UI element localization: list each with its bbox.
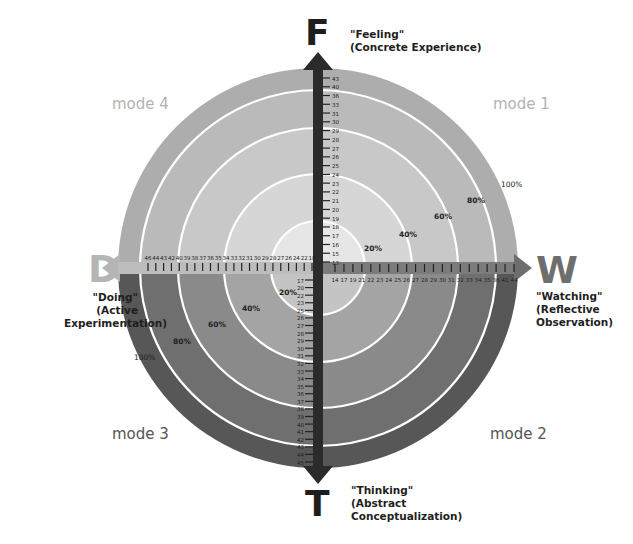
horizontal-axis-right	[318, 262, 518, 274]
learning-style-diagram: 1315161718192021222324252627282930313336…	[0, 0, 633, 544]
tick-label-right: 23	[376, 277, 383, 283]
tick-label-left: 28	[269, 255, 276, 261]
tick-label-right: 19	[349, 277, 356, 283]
tick-label-down: 31	[297, 353, 304, 359]
tick-label-left: 46	[145, 255, 152, 261]
tick-label-up: 20	[332, 207, 339, 213]
doing-subtitle-1: (Active	[64, 304, 138, 317]
tick-label-up: 33	[332, 102, 339, 108]
pct-label-ur-100: 100%	[501, 180, 522, 189]
pole-letter-f: F	[305, 15, 330, 51]
pct-label-ll-40: 40%	[242, 304, 260, 313]
doing-subtitle-2: Experimentation)	[64, 317, 138, 330]
tick-label-up: 21	[332, 198, 339, 204]
tick-label-down: 30	[297, 346, 304, 352]
pole-label-watching: "Watching" (Reflective Observation)	[536, 290, 613, 329]
mode-label-3: mode 3	[112, 425, 169, 443]
tick-label-down: 40	[297, 422, 304, 428]
tick-label-up: 40	[332, 84, 339, 90]
tick-label-left: 35	[215, 255, 222, 261]
tick-label-left: 39	[184, 255, 191, 261]
pct-label-ll-60: 60%	[208, 320, 226, 329]
tick-label-down: 42	[297, 437, 304, 443]
tick-label-left: 43	[160, 255, 167, 261]
pole-letter-d: D	[88, 250, 120, 288]
doing-title: "Doing"	[64, 291, 138, 304]
tick-label-down: 35	[297, 384, 304, 390]
tick-label-right: 30	[439, 277, 446, 283]
tick-label-up: 16	[332, 242, 339, 248]
tick-label-left: 30	[254, 255, 261, 261]
tick-label-up: 36	[332, 93, 339, 99]
tick-label-down: 41	[297, 429, 304, 435]
pole-letter-t: T	[305, 486, 330, 522]
tick-label-right: 28	[421, 277, 428, 283]
tick-label-up: 17	[332, 233, 339, 239]
tick-label-up: 31	[332, 111, 339, 117]
tick-label-right: 25	[394, 277, 401, 283]
tick-label-left: 44	[152, 255, 159, 261]
pole-label-thinking: "Thinking" (Abstract Conceptualization)	[351, 484, 462, 523]
tick-label-left: 34	[223, 255, 230, 261]
tick-label-down: 36	[297, 391, 304, 397]
tick-label-left: 27	[277, 255, 284, 261]
tick-label-right: 22	[367, 277, 374, 283]
tick-label-down: 32	[297, 361, 304, 367]
tick-label-down: 28	[297, 331, 304, 337]
tick-label-left: 42	[168, 255, 175, 261]
pole-label-doing: "Doing" (Active Experimentation)	[64, 291, 138, 330]
tick-label-down: 17	[297, 278, 304, 284]
pole-letter-w: W	[536, 251, 578, 289]
mode-label-1: mode 1	[493, 95, 550, 113]
tick-label-down: 34	[297, 376, 304, 382]
tick-label-down: 25	[297, 308, 304, 314]
tick-label-left: 22	[301, 255, 308, 261]
thinking-subtitle-2: Conceptualization)	[351, 510, 462, 523]
tick-label-up: 26	[332, 154, 339, 160]
tick-label-up: 28	[332, 137, 339, 143]
tick-label-right: 32	[457, 277, 464, 283]
pct-label-ll-100: 100%	[134, 353, 155, 362]
tick-label-down: 45	[297, 460, 304, 466]
tick-label-right: 17	[340, 277, 347, 283]
pct-label-ur-20: 20%	[364, 244, 382, 253]
watching-subtitle-1: (Reflective	[536, 303, 613, 316]
tick-label-down: 23	[297, 300, 304, 306]
tick-label-up: 18	[332, 224, 339, 230]
tick-label-right: 14	[332, 277, 339, 283]
tick-label-up: 23	[332, 181, 339, 187]
pct-label-ur-80: 80%	[467, 196, 485, 205]
tick-label-down: 39	[297, 414, 304, 420]
tick-label-left: 29	[262, 255, 269, 261]
tick-label-down: 22	[297, 293, 304, 299]
tick-label-up: 15	[332, 251, 339, 257]
tick-label-left: 38	[191, 255, 198, 261]
thinking-subtitle-1: (Abstract	[351, 497, 462, 510]
tick-label-up: 22	[332, 189, 339, 195]
tick-label-left: 26	[285, 255, 292, 261]
tick-label-up: 24	[332, 172, 339, 178]
tick-label-right: 21	[358, 277, 365, 283]
tick-label-down: 37	[297, 399, 304, 405]
pct-label-ur-60: 60%	[434, 212, 452, 221]
tick-label-left: 33	[230, 255, 237, 261]
tick-label-down: 33	[297, 369, 304, 375]
tick-label-right: 35	[484, 277, 491, 283]
feeling-subtitle: (Concrete Experience)	[350, 41, 482, 54]
tick-label-up: 29	[332, 128, 339, 134]
pct-label-ll-20: 20%	[279, 288, 297, 297]
vertical-axis-bar	[313, 62, 323, 476]
tick-label-up: 43	[332, 76, 339, 82]
tick-label-up: 13	[332, 260, 339, 266]
tick-label-right: 27	[412, 277, 419, 283]
tick-label-down: 44	[297, 452, 304, 458]
up-arrowhead-icon	[303, 52, 333, 70]
watching-title: "Watching"	[536, 290, 613, 303]
tick-label-right: 24	[385, 277, 392, 283]
tick-label-up: 19	[332, 216, 339, 222]
tick-label-left: 40	[176, 255, 183, 261]
tick-label-down: 29	[297, 338, 304, 344]
tick-label-left: 31	[246, 255, 253, 261]
tick-label-left: 32	[238, 255, 245, 261]
tick-label-right: 44	[511, 277, 518, 283]
